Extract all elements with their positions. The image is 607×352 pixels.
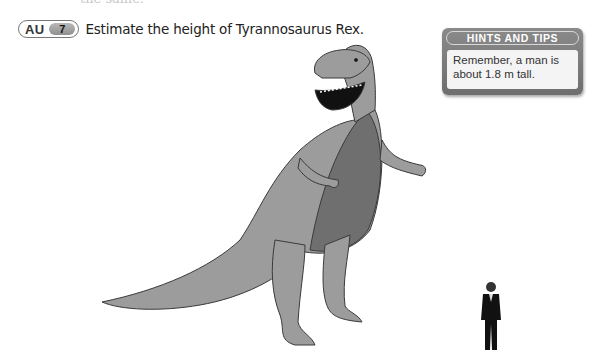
man-in-suit-illustration	[478, 280, 504, 352]
hints-body: Remember, a man is about 1.8 m tall.	[447, 50, 578, 89]
question-number: 7	[49, 23, 75, 35]
hints-title: HINTS AND TIPS	[467, 32, 558, 44]
badge-label: AU	[25, 22, 44, 37]
question-7: AU 7 Estimate the height of Tyrannosauru…	[18, 20, 364, 38]
hints-and-tips-box: HINTS AND TIPS Remember, a man is about …	[442, 28, 583, 95]
hints-title-bar: HINTS AND TIPS	[446, 31, 579, 45]
tyrannosaurus-rex-illustration	[100, 40, 440, 352]
question-badge: AU 7	[18, 20, 79, 38]
cutoff-previous-text: the same.	[80, 0, 144, 6]
question-text: Estimate the height of Tyrannosaurus Rex…	[85, 21, 364, 37]
